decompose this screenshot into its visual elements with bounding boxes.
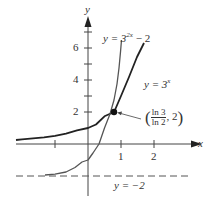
- curve1-exponent: 2x: [126, 31, 133, 39]
- intersection-label: (ln 3ln 2, 2): [145, 108, 183, 127]
- x-axis-label: x: [198, 138, 203, 149]
- annotation-arrow-icon: [117, 112, 122, 116]
- y-tick-label-6: 6: [73, 42, 79, 53]
- paren-close: ): [177, 108, 183, 127]
- curve2-base: y = 3: [144, 78, 167, 90]
- y-axis-label: y: [85, 4, 90, 15]
- graph-canvas: [0, 0, 210, 202]
- x-tick-label-2: 2: [151, 151, 157, 162]
- curve-label-3-pow-x: y = 3x: [144, 78, 170, 90]
- curve-label-3-pow-2x-minus-2: y = 32x − 2: [103, 32, 150, 44]
- annotation-leader: [119, 113, 141, 119]
- x-tick-label-1: 1: [118, 151, 124, 162]
- intersection-point: [111, 109, 117, 115]
- curve-3-pow-2x-minus-2: [45, 40, 122, 175]
- curve-3-pow-x: [16, 43, 144, 140]
- curve2-exponent: x: [167, 77, 170, 85]
- fraction: ln 3ln 2: [151, 108, 167, 127]
- curve1-base: y = 3: [103, 32, 126, 44]
- curve1-suffix: − 2: [133, 32, 150, 44]
- fraction-denominator: ln 2: [151, 118, 167, 127]
- y-tick-label-2: 2: [73, 106, 79, 117]
- point-y-value: , 2: [166, 110, 177, 122]
- graph-figure: y x 1 2 2 4 6 y = 32x − 2 y = 3x (ln 3ln…: [0, 0, 210, 202]
- y-tick-label-4: 4: [73, 74, 79, 85]
- y-axis-arrow-icon: [85, 16, 92, 27]
- asymptote-label: y = −2: [114, 180, 145, 191]
